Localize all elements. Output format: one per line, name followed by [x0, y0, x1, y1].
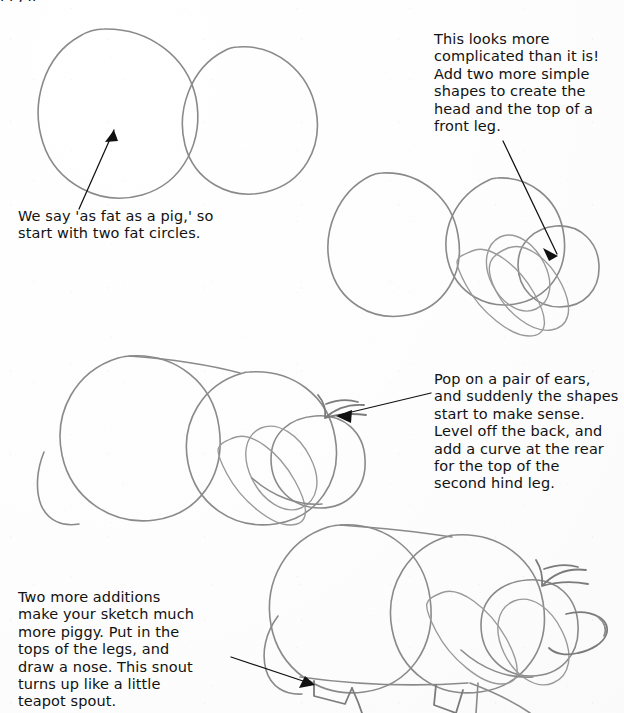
step-2-drawing	[328, 173, 599, 336]
step4-ears	[536, 560, 588, 586]
step4-snout-oval	[427, 591, 518, 684]
step2-body-circle	[328, 173, 459, 316]
step2-cheek-circle	[518, 226, 599, 307]
step4-body-circle	[269, 525, 431, 693]
step-3-drawing	[37, 356, 366, 525]
caption-step-3: Pop on a pair of ears, and suddenly the …	[434, 371, 624, 493]
arrow-step-3	[336, 393, 431, 423]
step3-snout-oval	[218, 436, 305, 525]
step3-rump-curve	[37, 452, 79, 525]
step-4-drawing	[264, 525, 607, 713]
caption-step-4: Two more additions make your sketch much…	[18, 589, 233, 711]
step2-snout-oval-2	[457, 249, 544, 336]
big-right-circle	[182, 47, 317, 194]
step2-snout-oval	[489, 247, 568, 331]
step2-head-circle	[446, 178, 565, 305]
step4-hind-leg-b	[476, 683, 478, 713]
step4-level-back	[340, 525, 452, 537]
step4-belly-line	[300, 677, 468, 685]
big-left-circle	[38, 29, 197, 198]
step3-head-circle	[186, 372, 336, 525]
step4-cheek-circle	[481, 580, 578, 676]
caption-step-1: We say 'as fat as a pig,' so start with …	[18, 208, 248, 243]
page-canvas: I I , II	[0, 0, 624, 713]
caption-step-2: This looks more complicated than it is! …	[434, 31, 624, 135]
step-1-drawing	[38, 29, 317, 198]
step4-hind-leg-a	[434, 685, 463, 713]
step3-body-circle	[60, 356, 220, 521]
